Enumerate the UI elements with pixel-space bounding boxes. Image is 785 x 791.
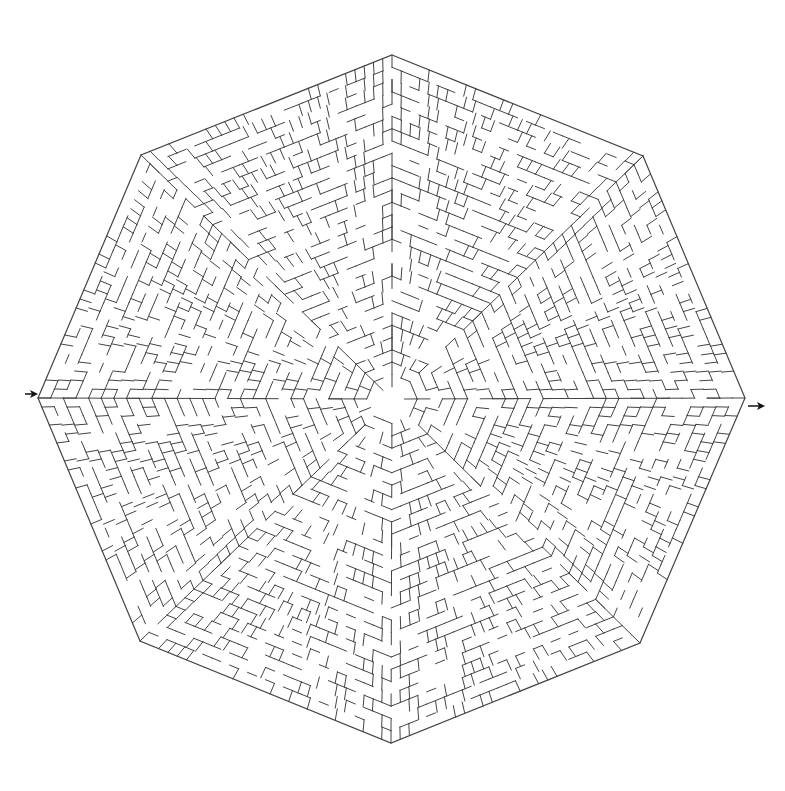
entrance-arrow	[25, 390, 38, 398]
maze-canvas	[0, 0, 785, 791]
maze-walls	[38, 55, 745, 743]
exit-arrow	[748, 402, 765, 410]
maze-wall-paths	[38, 55, 745, 743]
